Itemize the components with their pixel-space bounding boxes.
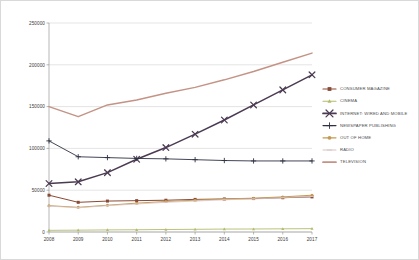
legend-item-label: OUT OF HOME <box>340 135 371 140</box>
y-axis-tick-label: 150000 <box>29 104 45 109</box>
x-axis-tick-label: 2009 <box>73 237 84 242</box>
x-axis-tick-label: 2008 <box>44 237 55 242</box>
series-line <box>49 195 312 207</box>
series-out-of-home <box>48 194 314 209</box>
legend-item-cinema[interactable]: CINEMA <box>323 98 357 103</box>
x-axis-tick-label: 2013 <box>190 237 201 242</box>
x-axis-tick-label: 2010 <box>102 237 113 242</box>
y-axis-tick-labels: 050000100000150000200000250000 <box>29 21 45 235</box>
legend-item-out-of-home[interactable]: OUT OF HOME <box>323 135 371 140</box>
legend-item-label: NEWSPAPER PUBLISHING <box>340 123 396 128</box>
x-axis-tick-label: 2014 <box>219 237 230 242</box>
series-line <box>49 53 312 117</box>
data-series <box>46 53 315 231</box>
x-axis-tick-labels: 2008200920102011201220132014201520162017 <box>44 237 318 242</box>
y-axis-tick-label: 50000 <box>32 188 46 193</box>
x-axis-tick-label: 2012 <box>161 237 172 242</box>
legend-item-label: CINEMA <box>340 98 357 103</box>
legend-item-newspaper-publishing[interactable]: NEWSPAPER PUBLISHING <box>323 123 396 129</box>
legend-item-label: CONSUMER MAGAZINE <box>340 86 390 91</box>
y-axis-tick-label: 200000 <box>29 63 45 68</box>
data-point-marker <box>106 200 109 203</box>
legend-item-label: TELEVISION <box>340 159 366 164</box>
x-axis-tick-label: 2011 <box>132 237 143 242</box>
y-axis-tick-label: 100000 <box>29 146 45 151</box>
legend-item-television[interactable]: TELEVISION <box>323 159 366 164</box>
legend-item-radio[interactable]: RADIO <box>323 147 355 152</box>
legend-item-internet-wired-and-mobile[interactable]: INTERNET: WIRED AND MOBILE <box>323 110 407 117</box>
x-axis-tick-label: 2015 <box>248 237 259 242</box>
series-newspaper-publishing <box>47 139 315 164</box>
chart-plot-area: 050000100000150000200000250000 200820092… <box>1 1 419 260</box>
y-axis-tick-label: 0 <box>42 230 45 235</box>
data-point-marker <box>77 201 80 204</box>
legend-item-consumer-magazine[interactable]: CONSUMER MAGAZINE <box>323 86 390 91</box>
legend-item-label: INTERNET: WIRED AND MOBILE <box>340 111 407 116</box>
series-cinema <box>48 227 314 231</box>
x-axis-tick-label: 2016 <box>277 237 288 242</box>
series-line <box>49 141 312 161</box>
legend-item-label: RADIO <box>340 147 355 152</box>
x-axis-tick-label: 2017 <box>307 237 318 242</box>
line-chart-container: 050000100000150000200000250000 200820092… <box>0 0 419 260</box>
series-line <box>49 229 312 231</box>
chart-legend: CONSUMER MAGAZINECINEMAINTERNET: WIRED A… <box>323 86 407 164</box>
axes <box>47 23 313 235</box>
data-point-marker <box>328 136 332 140</box>
y-axis-tick-label: 250000 <box>29 21 45 26</box>
series-internet-wired-and-mobile <box>46 72 315 186</box>
data-point-marker <box>328 87 332 91</box>
series-line <box>49 75 312 184</box>
series-consumer-magazine <box>48 194 314 204</box>
series-television <box>49 53 312 117</box>
data-point-marker <box>48 194 51 197</box>
